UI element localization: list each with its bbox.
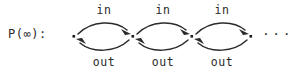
edge-group-1	[76, 23, 131, 50]
out-arrowhead-1	[76, 37, 87, 44]
in-arrowhead-2	[179, 29, 190, 36]
in-arrow-curve-3	[196, 23, 245, 34]
edge-label-in-2: in	[150, 3, 176, 17]
edge-label-in-3: in	[209, 3, 235, 17]
out-arrow-curve-3	[198, 40, 247, 50]
continuation-ellipsis: ···	[262, 26, 293, 41]
out-arrowhead-3	[194, 37, 205, 44]
in-arrowhead-1	[120, 29, 131, 36]
edge-group-2	[135, 23, 190, 50]
edge-group-3	[194, 23, 249, 50]
edge-label-in-1: in	[91, 3, 117, 17]
in-arrow-curve-2	[137, 23, 186, 34]
edge-label-out-1: out	[86, 55, 122, 69]
state-node-4	[250, 35, 253, 38]
out-arrow-curve-1	[80, 40, 129, 50]
edge-label-out-3: out	[204, 55, 240, 69]
out-arrow-curve-2	[139, 40, 188, 50]
in-arrowhead-3	[238, 29, 249, 36]
state-node-3	[191, 35, 194, 38]
in-arrow-curve-1	[78, 23, 127, 34]
edge-label-out-2: out	[145, 55, 181, 69]
state-node-2	[132, 35, 135, 38]
infinite-chain-diagram: P(∞): in in in out out	[0, 0, 294, 74]
state-node-1	[73, 35, 76, 38]
out-arrowhead-2	[135, 37, 146, 44]
